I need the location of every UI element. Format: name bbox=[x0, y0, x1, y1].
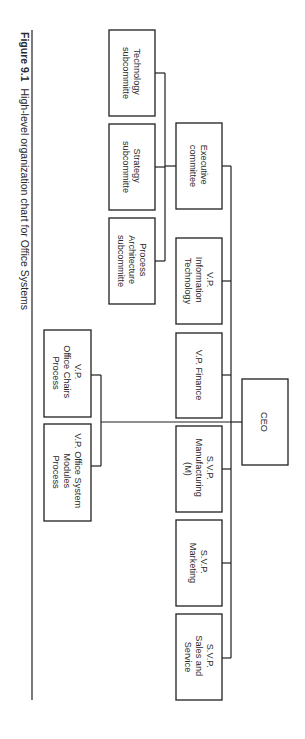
org-chart: Figure 9.1 High-level organization chart… bbox=[0, 0, 305, 739]
node-svp-sales-service: S.V.P. Sales and Service bbox=[176, 614, 222, 700]
node-strategy-subcommittee: Strategy subcommitte bbox=[109, 124, 155, 210]
svg-text:Figure 9.1 High-level or: Figure 9.1 High-level organization chart… bbox=[19, 32, 31, 310]
svg-text:Strategy subcommitte: Strategy subcommitte bbox=[121, 141, 142, 193]
node-vp-information-technology: V.P. Information Technology bbox=[176, 238, 222, 324]
node-svp-marketing: S.V.P. Marketing bbox=[176, 520, 222, 606]
svg-text:V.P. Finance: V.P. Finance bbox=[194, 350, 204, 401]
figure-caption: Figure 9.1 High-level organization chart… bbox=[19, 32, 31, 310]
node-ceo: CEO bbox=[242, 379, 288, 465]
node-vp-office-chairs: V.P. Office Chairs Process bbox=[44, 330, 91, 417]
node-vp-office-system-modules: V.P. Office System Modules Process bbox=[44, 424, 91, 521]
svg-text:Technology subcommitte: Technology subcommitte bbox=[121, 47, 142, 99]
figure-label: Figure 9.1 bbox=[19, 32, 31, 82]
node-ceo-label: CEO bbox=[259, 412, 269, 432]
svg-text:Executive committee: Executive committee bbox=[188, 145, 209, 187]
node-executive-committee: Executive committee bbox=[176, 123, 222, 209]
figure-caption-text: High-level organization chart for Office… bbox=[19, 89, 31, 311]
node-vp-finance: V.P. Finance bbox=[176, 333, 222, 418]
node-technology-subcommittee: Technology subcommitte bbox=[109, 30, 155, 116]
node-process-architecture-subcommittee: Process Architecture subcommitte bbox=[109, 218, 155, 304]
node-svp-manufacturing: S.V.P. Manufacturing (M) bbox=[176, 426, 222, 512]
